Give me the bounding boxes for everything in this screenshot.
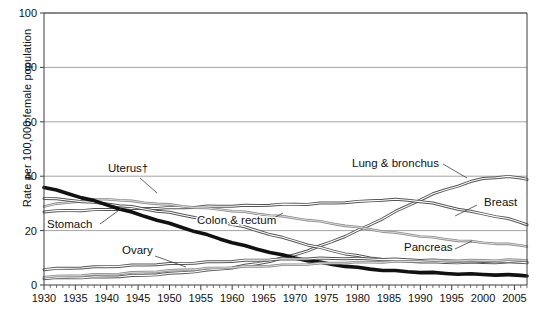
x-tick-label-1970: 1970 — [283, 292, 307, 304]
x-tick-label-1965: 1965 — [251, 292, 275, 304]
x-tick-label-1960: 1960 — [220, 292, 244, 304]
cancer-death-rate-line-chart: Rate per 100,000 female population 02040… — [0, 0, 539, 309]
x-tick-label-1945: 1945 — [126, 292, 150, 304]
x-tick-label-1935: 1935 — [63, 292, 87, 304]
uterus-label: Uterus† — [108, 162, 148, 174]
y-tick-label-80: 80 — [25, 61, 37, 73]
x-tick-label-1955: 1955 — [189, 292, 213, 304]
data-series-group — [44, 176, 527, 278]
x-tick-label-1995: 1995 — [439, 292, 463, 304]
stomach-label: Stomach — [47, 218, 92, 230]
x-tick-label-1930: 1930 — [32, 292, 56, 304]
plot-frame — [44, 13, 527, 285]
x-tick-label-1975: 1975 — [314, 292, 338, 304]
leader-line-uterus — [140, 178, 157, 193]
x-tick-label-2000: 2000 — [471, 292, 495, 304]
x-tick-label-2005: 2005 — [502, 292, 526, 304]
y-axis-ticks-group: 020406080100 — [19, 7, 44, 291]
chart-canvas: 020406080100 193019351940194519501955196… — [0, 0, 539, 309]
x-tick-label-1985: 1985 — [377, 292, 401, 304]
y-tick-label-100: 100 — [19, 7, 37, 19]
y-tick-label-20: 20 — [25, 225, 37, 237]
x-tick-label-1980: 1980 — [345, 292, 369, 304]
x-tick-label-1950: 1950 — [157, 292, 181, 304]
x-tick-label-1940: 1940 — [94, 292, 118, 304]
gridlines-group — [44, 13, 527, 231]
breast-label: Breast — [484, 196, 518, 208]
colon-rectum-label: Colon & rectum — [197, 214, 276, 226]
pancreas-label: Pancreas — [404, 241, 453, 253]
y-tick-label-40: 40 — [25, 170, 37, 182]
y-tick-label-60: 60 — [25, 116, 37, 128]
x-axis-ticks-group: 1930193519401945195019551960196519701975… — [32, 285, 527, 304]
x-tick-label-1990: 1990 — [408, 292, 432, 304]
ovary-label: Ovary — [122, 244, 153, 256]
y-tick-label-0: 0 — [31, 279, 37, 291]
lung-bronchus-label: Lung & bronchus — [352, 157, 439, 169]
